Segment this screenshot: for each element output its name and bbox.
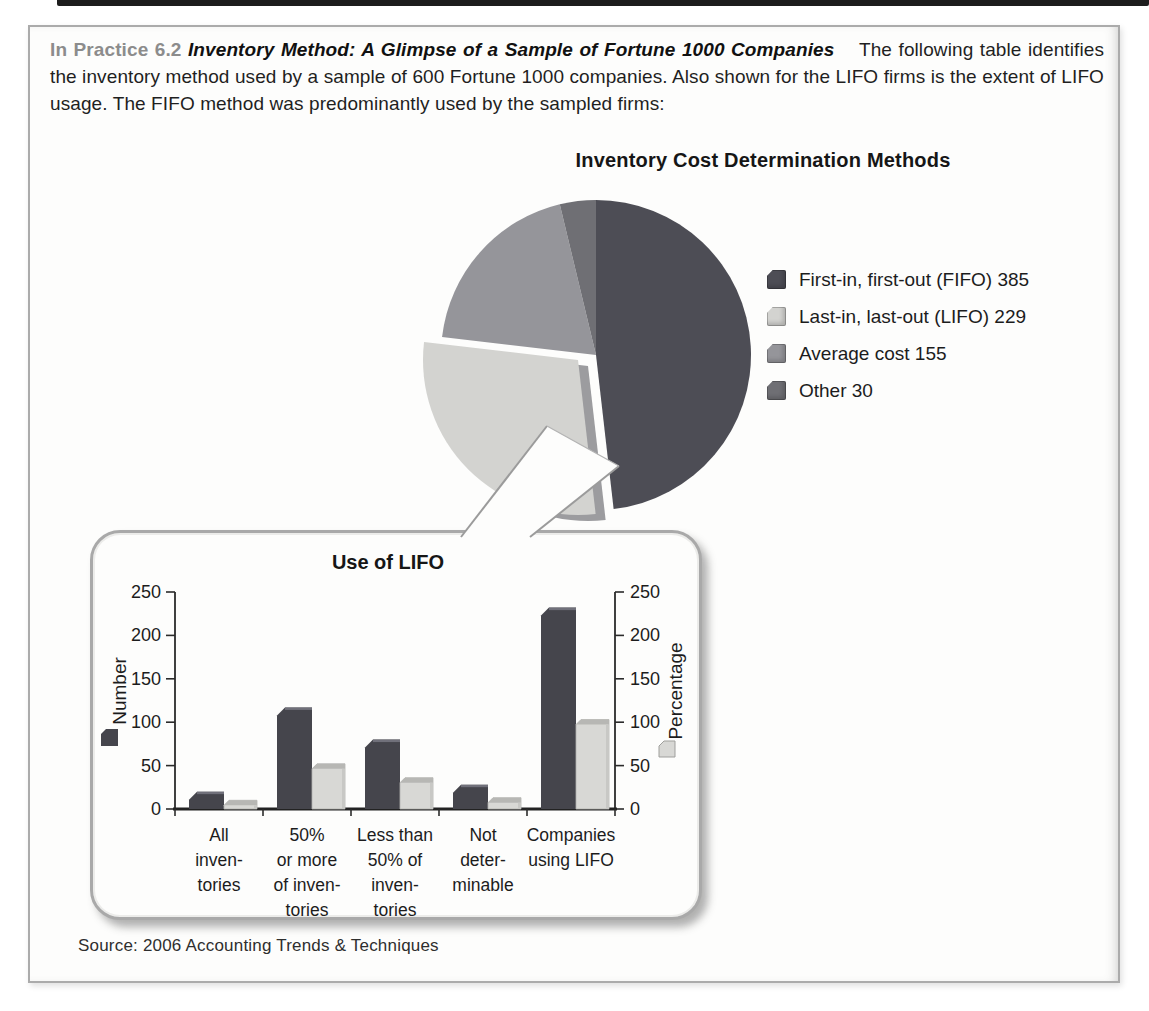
category-label: or more [277, 850, 337, 870]
left-tick-label: 50 [141, 756, 161, 776]
bar-percentage-side-face [254, 805, 257, 809]
category-label: using LIFO [528, 850, 614, 870]
category-label: 50% [289, 825, 324, 845]
number-series-swatch-icon [101, 729, 118, 746]
left-tick-label: 100 [131, 712, 161, 732]
bar-percentage-side-face [518, 803, 521, 809]
source-note: Source: 2006 Accounting Trends & Techniq… [78, 936, 439, 956]
intro-paragraph: In Practice 6.2 Inventory Method: A Glim… [50, 36, 1104, 117]
legend-item: Other 30 [767, 381, 1029, 400]
left-tick-label: 200 [131, 625, 161, 645]
bar-chart-title: Use of LIFO [332, 551, 444, 573]
category-label: tories [286, 900, 329, 920]
category-label: tories [198, 875, 241, 895]
legend-swatch-icon [767, 381, 786, 400]
left-tick-label: 0 [151, 799, 161, 819]
bar-percentage [312, 764, 345, 809]
category-label: of inven- [273, 875, 340, 895]
bar-chart: Use of LIFO00505010010015015020020025025… [93, 533, 699, 917]
category-label: minable [452, 875, 513, 895]
legend-label: Average cost 155 [799, 343, 947, 365]
bar-percentage-side-face [342, 769, 345, 809]
bar-number [277, 707, 312, 809]
bar-percentage-side-face [606, 725, 609, 809]
bar-percentage-side-face [430, 783, 433, 809]
right-axis-title: Percentage [665, 642, 686, 739]
category-label: Less than [357, 825, 433, 845]
practice-title: Inventory Method: A Glimpse of a Sample … [188, 39, 834, 60]
bar-percentage-top-face [312, 764, 345, 769]
category-label: 50% of [368, 850, 423, 870]
category-label: Companies [527, 825, 616, 845]
lifo-callout-box: Use of LIFO00505010010015015020020025025… [90, 530, 702, 920]
bar-percentage-top-face [576, 720, 609, 725]
scan-edge-artifact [57, 0, 1149, 6]
legend-swatch-icon [767, 270, 786, 289]
legend-swatch-icon [767, 307, 786, 326]
bar-percentage [576, 720, 609, 809]
category-label: Not [469, 825, 496, 845]
callout-tail-fill [461, 426, 619, 537]
right-tick-label: 100 [630, 712, 660, 732]
legend-label: Other 30 [799, 380, 873, 402]
right-tick-label: 0 [630, 799, 640, 819]
legend-label: Last-in, last-out (LIFO) 229 [799, 306, 1026, 328]
right-tick-label: 150 [630, 669, 660, 689]
category-label: deter- [460, 850, 506, 870]
percentage-series-swatch-icon [659, 741, 675, 757]
page: In Practice 6.2 Inventory Method: A Glim… [0, 0, 1149, 1011]
practice-label: In Practice 6.2 [50, 39, 182, 60]
legend-label: First-in, first-out (FIFO) 385 [799, 269, 1029, 291]
pie-legend: First-in, first-out (FIFO) 385Last-in, l… [767, 270, 1029, 418]
category-label: inven- [195, 850, 243, 870]
legend-item: Last-in, last-out (LIFO) 229 [767, 307, 1029, 326]
right-tick-label: 50 [630, 756, 650, 776]
legend-item: Average cost 155 [767, 344, 1029, 363]
in-practice-box: In Practice 6.2 Inventory Method: A Glim… [28, 25, 1120, 983]
right-tick-label: 200 [630, 625, 660, 645]
bar-percentage-top-face [224, 800, 257, 805]
callout-tail [432, 407, 652, 542]
bar-number [541, 608, 576, 809]
bar-number [365, 740, 400, 809]
legend-item: First-in, first-out (FIFO) 385 [767, 270, 1029, 289]
bar-percentage-top-face [400, 778, 433, 783]
pie-chart-title: Inventory Cost Determination Methods [513, 149, 1013, 172]
left-tick-label: 150 [131, 669, 161, 689]
legend-swatch-icon [767, 344, 786, 363]
category-label: All [209, 825, 228, 845]
bar-percentage-top-face [488, 798, 521, 803]
left-tick-label: 250 [131, 582, 161, 602]
bar-number [189, 792, 224, 809]
category-label: inven- [371, 875, 419, 895]
left-axis-title: Number [109, 657, 130, 725]
category-label: tories [374, 900, 417, 920]
right-tick-label: 250 [630, 582, 660, 602]
bar-number [453, 785, 488, 809]
